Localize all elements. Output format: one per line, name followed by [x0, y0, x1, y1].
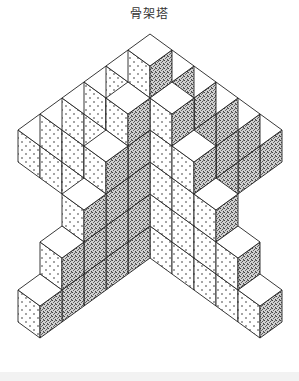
skeleton-tower-figure — [0, 0, 299, 372]
cube-group — [18, 34, 282, 338]
footer-band — [0, 372, 299, 381]
